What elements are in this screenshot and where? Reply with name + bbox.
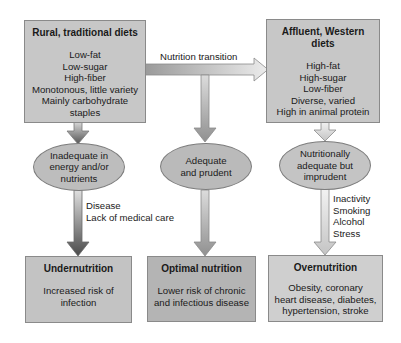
factor-item: Alcohol bbox=[333, 216, 370, 228]
box-line: High in animal protein bbox=[267, 106, 379, 118]
box-line: Mainly carbohydrate bbox=[25, 95, 145, 107]
nutrition-transition-label: Nutrition transition bbox=[160, 51, 237, 63]
left-factors-label: Disease Lack of medical care bbox=[86, 200, 174, 223]
optimal-nutrition-box: Optimal nutrition Lower risk of chronic … bbox=[147, 256, 256, 322]
factor-item: Lack of medical care bbox=[86, 212, 174, 224]
overnutrition-box: Overnutrition Obesity, coronary heart di… bbox=[268, 255, 383, 322]
box-line: Monotonous, little variety bbox=[25, 84, 145, 96]
box-title: Optimal nutrition bbox=[148, 263, 255, 275]
box-line: hypertension, stroke bbox=[269, 305, 382, 317]
middle-branch-arrow bbox=[194, 75, 216, 142]
box-line: High-sugar bbox=[267, 72, 379, 84]
factor-item: Disease bbox=[86, 200, 174, 212]
ellipse-line: nutrients bbox=[61, 173, 98, 184]
right-factors-label: Inactivity Smoking Alcohol Stress bbox=[333, 193, 370, 239]
box-line: Diverse, varied bbox=[267, 95, 379, 107]
nutritionally-adequate-imprudent-ellipse: Nutritionally adequate but imprudent bbox=[279, 141, 371, 190]
box-title: Rural, traditional diets bbox=[25, 27, 145, 39]
adequate-prudent-ellipse: Adequate and prudent bbox=[160, 143, 252, 190]
rural-traditional-diets-box: Rural, traditional diets Low-fat Low-sug… bbox=[24, 20, 146, 123]
ellipse-line: Nutritionally bbox=[300, 148, 350, 159]
ellipse-line: energy and/or bbox=[49, 161, 108, 172]
box-title-line1: Affluent, Western bbox=[267, 26, 379, 38]
box-line: staples bbox=[25, 107, 145, 119]
box-line: and infectious disease bbox=[148, 297, 255, 309]
box-line: High-fat bbox=[267, 60, 379, 72]
ellipse-line: adequate but bbox=[297, 160, 353, 171]
box-line: Low-sugar bbox=[25, 61, 145, 73]
ellipse-line: Adequate bbox=[185, 155, 226, 166]
left-down-arrow-1 bbox=[67, 122, 89, 144]
middle-down-arrow-2 bbox=[194, 190, 216, 256]
ellipse-line: Inadequate in bbox=[50, 150, 108, 161]
box-line: Low-fat bbox=[25, 49, 145, 61]
undernutrition-box: Undernutrition Increased risk of infecti… bbox=[25, 256, 132, 323]
ellipse-line: imprudent bbox=[304, 171, 347, 182]
factor-item: Stress bbox=[333, 228, 370, 240]
box-line: Increased risk of bbox=[26, 285, 131, 297]
affluent-western-diets-box: Affluent, Western diets High-fat High-su… bbox=[266, 19, 380, 123]
box-line: High-fiber bbox=[25, 72, 145, 84]
box-title: Overnutrition bbox=[269, 262, 382, 274]
ellipse-line: and prudent bbox=[180, 167, 231, 178]
box-line: heart disease, diabetes, bbox=[269, 294, 382, 306]
factor-item: Smoking bbox=[333, 205, 370, 217]
right-down-arrow-1 bbox=[314, 122, 336, 141]
box-line: infection bbox=[26, 297, 131, 309]
factor-item: Inactivity bbox=[333, 193, 370, 205]
box-line: Obesity, coronary bbox=[269, 282, 382, 294]
box-line: Low-fiber bbox=[267, 83, 379, 95]
box-title: Undernutrition bbox=[26, 263, 131, 275]
inadequate-ellipse: Inadequate in energy and/or nutrients bbox=[33, 143, 125, 191]
box-line: Lower risk of chronic bbox=[148, 285, 255, 297]
box-title-line2: diets bbox=[267, 38, 379, 50]
